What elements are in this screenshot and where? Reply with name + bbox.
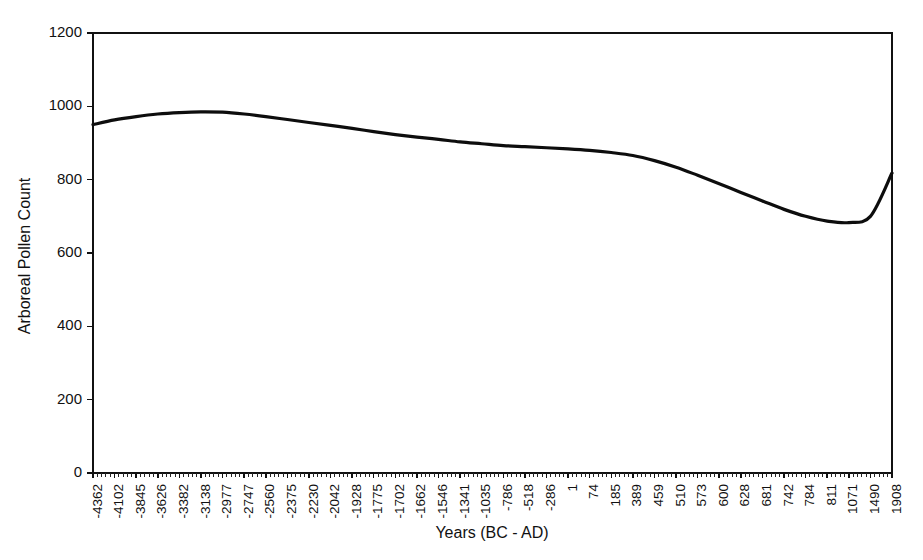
- x-axis-tick-label: -518: [521, 484, 536, 511]
- x-axis-tick-label: 681: [759, 484, 774, 507]
- x-axis-tick-label: 811: [824, 484, 839, 506]
- x-axis-tick-label: 389: [629, 484, 644, 507]
- y-axis-tick-label: 0: [74, 463, 82, 480]
- x-axis-tick-label: 628: [737, 484, 752, 507]
- pollen-count-chart-figure: 120010008006004002000 -4362-4102-3845-36…: [0, 0, 923, 560]
- x-axis-tick-label: -1662: [413, 484, 428, 519]
- x-axis-tick-label: 1: [565, 484, 580, 492]
- chart-canvas: 120010008006004002000 -4362-4102-3845-36…: [0, 0, 923, 560]
- x-axis-tick-label: -3626: [154, 484, 169, 519]
- x-axis-tick-label: 459: [651, 484, 666, 507]
- x-axis-tick-label: 185: [608, 484, 623, 507]
- y-axis-tick-label: 600: [57, 243, 82, 260]
- x-axis-tick-label: 1071: [845, 484, 860, 514]
- y-axis-tick-label: 1000: [49, 96, 82, 113]
- x-axis-tick-label: 573: [694, 484, 709, 507]
- x-axis-tick-label: -2977: [219, 484, 234, 519]
- x-axis-tick-label: -3382: [176, 484, 191, 519]
- x-axis-tick-label: -2747: [241, 484, 256, 519]
- x-axis-tick-label: 742: [781, 484, 796, 507]
- x-axis-tick-label: -1702: [392, 484, 407, 519]
- x-axis-tick-label: 1908: [889, 484, 904, 514]
- x-axis-tick-label: -1775: [370, 484, 385, 519]
- x-axis-tick-label: -286: [543, 484, 558, 511]
- x-axis-tick-label: 74: [586, 484, 601, 500]
- x-axis-tick-label: -2560: [262, 484, 277, 519]
- x-axis-tick-label: -3845: [133, 484, 148, 519]
- x-axis-tick-label: 784: [802, 484, 817, 507]
- x-axis-tick-label: 1490: [867, 484, 882, 514]
- y-axis-tick-label: 1200: [49, 23, 82, 40]
- x-axis-tick-label: -1546: [435, 484, 450, 519]
- x-axis-tick-label: -3138: [198, 484, 213, 519]
- x-axis-tick-label: -4102: [111, 484, 126, 519]
- x-axis-tick-label: -1035: [478, 484, 493, 519]
- x-axis-tick-label: 600: [716, 484, 731, 507]
- y-axis-tick-label: 200: [57, 390, 82, 407]
- x-axis-title: Years (BC - AD): [435, 524, 548, 541]
- x-axis-tick-label: -2230: [306, 484, 321, 519]
- x-axis-tick-label: -2375: [284, 484, 299, 519]
- y-axis-tick-label: 800: [57, 170, 82, 187]
- x-axis-tick-label: -4362: [90, 484, 105, 519]
- x-axis-tick-label: 510: [673, 484, 688, 507]
- x-axis-tick-label: -786: [500, 484, 515, 511]
- y-axis-tick-label: 400: [57, 316, 82, 333]
- y-axis-title: Arboreal Pollen Count: [16, 177, 33, 334]
- x-axis-tick-label: -1341: [457, 484, 472, 519]
- x-axis-tick-label: -2042: [327, 484, 342, 519]
- x-axis-tick-label: -1928: [349, 484, 364, 519]
